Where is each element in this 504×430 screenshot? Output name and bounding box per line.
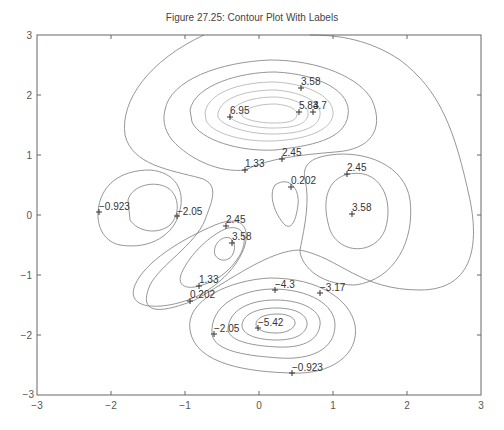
x-tick-label: 2 bbox=[404, 400, 410, 411]
contour-plot: −3 −2 −1 0 1 2 3 3 2 1 0 −1 −2 −3 6.95 3… bbox=[0, 0, 504, 430]
svg-text:3.58: 3.58 bbox=[232, 231, 252, 242]
contour-label: 4.7 bbox=[310, 100, 327, 115]
svg-text:0.202: 0.202 bbox=[291, 175, 316, 186]
y-tick-label: −1 bbox=[21, 270, 33, 281]
contour-label: 6.95 bbox=[227, 105, 250, 120]
contour-label: 3.58 bbox=[229, 231, 252, 246]
svg-text:−0.923: −0.923 bbox=[99, 201, 130, 212]
svg-text:2.45: 2.45 bbox=[226, 214, 246, 225]
svg-text:1.33: 1.33 bbox=[245, 158, 265, 169]
plot-area bbox=[37, 35, 481, 395]
svg-text:−4.3: −4.3 bbox=[275, 279, 295, 290]
y-axis: 3 2 1 0 −1 −2 −3 bbox=[21, 30, 35, 400]
y-tick-label: 0 bbox=[26, 210, 32, 221]
contour-lines bbox=[98, 35, 474, 373]
y-tick-label: 1 bbox=[26, 150, 32, 161]
svg-text:6.95: 6.95 bbox=[230, 105, 250, 116]
y-tick-label: 3 bbox=[26, 30, 32, 41]
svg-text:3.58: 3.58 bbox=[301, 76, 321, 87]
x-tick-label: −1 bbox=[179, 400, 191, 411]
contour-label: 1.33 bbox=[242, 158, 265, 173]
x-tick-label: −3 bbox=[31, 400, 43, 411]
contour-label: 0.202 bbox=[288, 175, 316, 190]
svg-text:0.202: 0.202 bbox=[190, 289, 215, 300]
y-tick-label: −3 bbox=[23, 389, 35, 400]
x-tick-label: 0 bbox=[256, 400, 262, 411]
svg-text:4.7: 4.7 bbox=[313, 100, 327, 111]
svg-text:3.58: 3.58 bbox=[352, 202, 372, 213]
svg-text:−2.05: −2.05 bbox=[214, 323, 240, 334]
svg-text:−5.42: −5.42 bbox=[258, 317, 284, 328]
contour-label: 1.33 bbox=[196, 274, 219, 289]
contour-label: 3.58 bbox=[349, 202, 372, 217]
contour-label: −2.05 bbox=[211, 323, 240, 337]
svg-text:−2.05: −2.05 bbox=[177, 206, 203, 217]
svg-text:−0.923: −0.923 bbox=[292, 362, 323, 373]
x-tick-label: −2 bbox=[105, 400, 117, 411]
contour-label: 2.45 bbox=[344, 162, 367, 177]
contour-label: −0.923 bbox=[289, 362, 323, 376]
x-axis: −3 −2 −1 0 1 2 3 bbox=[31, 400, 484, 411]
contour-label: −0.923 bbox=[96, 201, 130, 215]
contour-label: −5.42 bbox=[255, 317, 284, 331]
svg-text:2.45: 2.45 bbox=[282, 147, 302, 158]
y-tick-label: −2 bbox=[21, 330, 33, 341]
x-tick-label: 1 bbox=[330, 400, 336, 411]
contour-label: −3.17 bbox=[317, 282, 346, 296]
svg-text:2.45: 2.45 bbox=[347, 162, 367, 173]
x-tick-label: 3 bbox=[478, 400, 484, 411]
y-tick-label: 2 bbox=[26, 90, 32, 101]
contour-label: 2.45 bbox=[223, 214, 246, 229]
axis-ticks bbox=[37, 35, 481, 395]
contour-label: 2.45 bbox=[279, 147, 302, 162]
svg-text:1.33: 1.33 bbox=[199, 274, 219, 285]
svg-text:−3.17: −3.17 bbox=[320, 282, 346, 293]
